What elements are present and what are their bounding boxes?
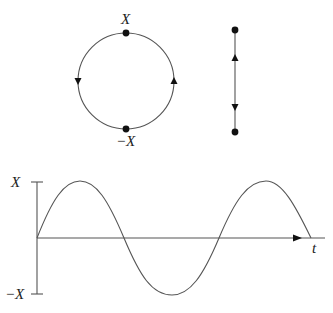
arrow-up-icon	[171, 77, 178, 84]
bottom-point	[123, 126, 130, 133]
y-bottom-label: −X	[5, 286, 25, 302]
top-label: X	[120, 11, 131, 27]
y-top-label: X	[10, 174, 21, 190]
bottom-label: −X	[116, 133, 136, 149]
orbit-circle	[78, 33, 174, 129]
x-axis-label: t	[312, 240, 317, 256]
arrow-up-icon	[232, 54, 239, 61]
line-phase-diagram	[232, 27, 239, 136]
circle-phase-diagram: X −X	[75, 11, 178, 149]
diagram-canvas: X −X X −X t	[0, 0, 333, 313]
arrow-down-icon	[75, 78, 82, 85]
arrow-down-icon	[232, 104, 239, 111]
upper-point	[232, 27, 239, 34]
top-point	[123, 30, 130, 37]
lower-point	[232, 129, 239, 136]
x-axis-arrow-icon	[293, 235, 302, 242]
time-graph: X −X t	[5, 174, 325, 302]
